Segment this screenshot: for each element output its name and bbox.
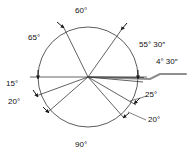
tick-115: [57, 22, 64, 28]
ray-minus-160: [36, 77, 88, 96]
ray-115: [63, 26, 88, 77]
arc-label-20-left: 20°: [8, 97, 20, 106]
arc-label-25: 25°: [145, 90, 157, 99]
ray-minus-30: [88, 77, 136, 105]
leader-group: [128, 96, 147, 120]
tick-minus-140: [43, 107, 49, 113]
arc-label-65: 65°: [28, 33, 40, 42]
tick-minus-160: [33, 90, 38, 97]
tick-minus-50: [123, 113, 129, 118]
ray-group: [36, 26, 144, 118]
arc-label-15: 15°: [6, 79, 18, 88]
arc-label-60: 60°: [75, 6, 87, 15]
ray-minus-50: [88, 77, 124, 118]
leader-20-right: [128, 112, 146, 120]
arc-label-20-right: 20°: [148, 115, 160, 124]
ray-55: [88, 29, 122, 77]
arc-label-4-30: 4° 30″: [156, 57, 178, 66]
arc-tick-group: [33, 22, 140, 118]
tick-55: [121, 23, 127, 30]
arc-label-55-30: 55° 30″: [139, 40, 165, 49]
ray-minus-140: [48, 77, 88, 112]
arc-label-90: 90°: [75, 140, 87, 149]
angle-diagram-canvas: [0, 0, 193, 156]
angle-diagram-figure: 60° 65° 55° 30″ 4° 30″ 15° 20° 25° 20° 9…: [0, 0, 193, 156]
